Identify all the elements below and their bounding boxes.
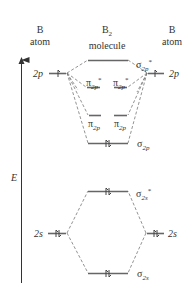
right-2s-label: 2s [168, 229, 177, 239]
right-2p-label: 2p [169, 69, 179, 79]
sigma-2s-star-label: σ2s* [136, 186, 151, 203]
pi-2p-star-label-a: π2p* [86, 75, 102, 92]
pi-2p-label-b: π2p [114, 119, 126, 133]
mo-diagram-lines [0, 0, 192, 287]
sigma-2p-label: σ2p [137, 139, 149, 153]
sigma-2p-star-label: σ2p* [136, 57, 152, 74]
electrons [56, 70, 159, 277]
left-2p-label: 2p [33, 69, 43, 79]
correlation-lines [67, 60, 147, 273]
left-2s-label: 2s [34, 229, 43, 239]
pi-2p-star-label-b: π2p* [113, 75, 129, 92]
sigma-2s-label: σ2s [137, 269, 149, 283]
pi-2p-label-a: π2p [88, 119, 100, 133]
energy-axis-label: E [11, 173, 17, 183]
